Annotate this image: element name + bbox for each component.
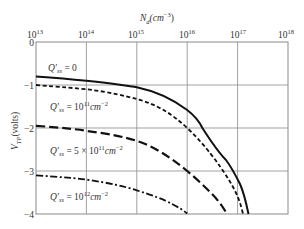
y-tick-m4: −4 xyxy=(24,210,34,220)
x-tick-1e18: 1018 xyxy=(278,28,294,40)
y-tick-0: 0 xyxy=(29,38,34,48)
curve-label-qss-1e12: Q′ss = 1012cm−2 xyxy=(50,190,108,203)
y-tick-m1: −1 xyxy=(24,81,34,91)
x-tick-1e14: 1014 xyxy=(78,28,95,40)
y-tick-m2: −2 xyxy=(24,124,34,134)
x-axis-title: Nd(cm−3) xyxy=(139,11,174,25)
x-tick-labels: 1013 1014 1015 1016 1017 1018 xyxy=(27,28,294,40)
y-tick-m3: −3 xyxy=(24,167,34,177)
curve-label-qss-1e11: Q′ss = 1011cm−2 xyxy=(50,100,108,113)
y-tick-labels: 0 −1 −2 −3 −4 xyxy=(24,38,34,220)
curve-label-qss-5e11: Q′ss = 5 × 1011cm−2 xyxy=(50,144,123,157)
y-axis-title: VTP(volts) xyxy=(10,112,22,150)
x-tick-1e16: 1016 xyxy=(179,28,196,40)
vtp-vs-nd-chart: 1013 1014 1015 1016 1017 1018 Nd(cm−3) 0… xyxy=(0,0,304,229)
curve-label-qss-0: Q′ss = 0 xyxy=(48,63,77,74)
x-tick-1e17: 1017 xyxy=(230,28,247,40)
x-tick-1e15: 1015 xyxy=(128,28,144,40)
